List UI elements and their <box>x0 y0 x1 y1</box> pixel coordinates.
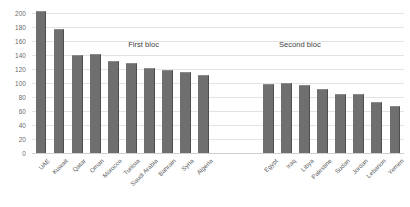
x-axis-tick-label: Libya <box>299 157 315 173</box>
y-axis: 200180160140120100806040200 <box>0 13 30 153</box>
bar <box>144 68 155 153</box>
bar <box>198 75 209 153</box>
bar <box>390 106 401 153</box>
x-axis-tick-label: Kuwait <box>51 157 69 175</box>
bar <box>36 11 47 153</box>
x-axis-tick-label: Algeria <box>195 157 214 176</box>
x-axis-tick-label: Morocco <box>101 157 123 179</box>
x-axis-labels: UAEKuwaitQatarOmanMoroccoTunisiaSaudi Ar… <box>32 155 404 207</box>
bar <box>72 55 83 153</box>
bar-chart: 200180160140120100806040200 UAEKuwaitQat… <box>0 0 410 207</box>
x-axis-tick-label: Iraq <box>284 157 297 170</box>
y-axis-tick-label: 160 <box>15 38 26 45</box>
bar <box>353 94 364 154</box>
bar <box>299 85 310 153</box>
y-axis-tick-label: 120 <box>15 66 26 73</box>
y-axis-tick-label: 100 <box>15 80 26 87</box>
y-axis-tick-label: 20 <box>19 136 26 143</box>
bar <box>371 102 382 153</box>
plot-area <box>32 13 404 153</box>
x-axis-tick-label: UAE <box>37 157 51 171</box>
bar <box>108 61 119 153</box>
gridline <box>32 153 404 154</box>
bar <box>281 83 292 153</box>
x-axis-tick-label: Sudan <box>333 157 351 175</box>
bloc-title-2: Second bloc <box>279 40 321 49</box>
x-axis-tick-label: Egypt <box>262 157 278 173</box>
y-axis-tick-label: 140 <box>15 52 26 59</box>
y-axis-tick-label: 180 <box>15 24 26 31</box>
bar <box>263 84 274 153</box>
x-axis-tick-label: Syria <box>180 157 195 172</box>
x-axis-tick-label: Yemen <box>386 157 405 176</box>
bar <box>317 89 328 153</box>
bar <box>126 63 137 153</box>
bar <box>162 70 173 153</box>
y-axis-tick-label: 0 <box>22 150 26 157</box>
bar <box>335 94 346 154</box>
x-axis-tick-label: Bahrain <box>157 157 177 177</box>
bars-layer <box>32 13 404 153</box>
y-axis-tick-label: 40 <box>19 122 26 129</box>
bar <box>180 72 191 153</box>
y-axis-tick-label: 60 <box>19 108 26 115</box>
bloc-title-1: First bloc <box>128 40 159 49</box>
bar <box>90 54 101 153</box>
bar <box>54 29 65 153</box>
y-axis-tick-label: 200 <box>15 10 26 17</box>
y-axis-tick-label: 80 <box>19 94 26 101</box>
x-axis-tick-label: Qatar <box>71 157 87 173</box>
